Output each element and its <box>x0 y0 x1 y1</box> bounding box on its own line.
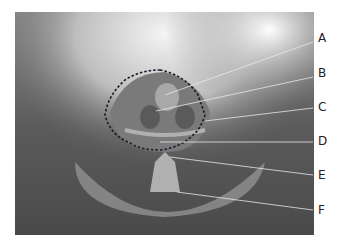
label-f: F <box>318 204 325 216</box>
label-e: E <box>318 169 326 181</box>
leader-lines <box>156 42 313 210</box>
label-c: C <box>318 101 326 113</box>
label-a: A <box>318 32 326 44</box>
foramen-outline <box>105 70 205 150</box>
label-d: D <box>318 135 327 147</box>
annotation-overlay <box>0 0 344 242</box>
label-b: B <box>318 67 326 79</box>
